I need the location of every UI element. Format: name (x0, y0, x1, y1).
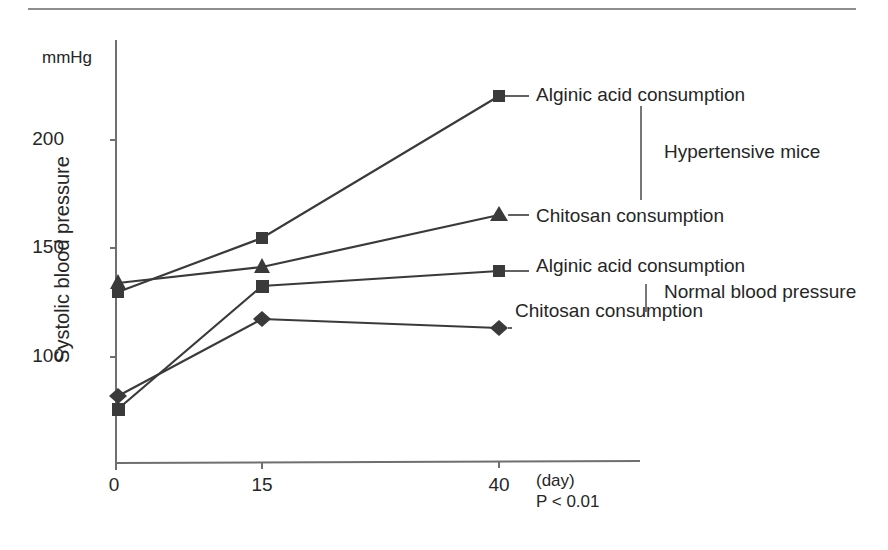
figure-page: mmHg 200 150 100 0 15 40 Systolic blood … (0, 0, 888, 550)
data-point-marker (493, 265, 505, 277)
data-point-marker (109, 388, 127, 404)
data-point-marker (490, 320, 508, 336)
data-point-marker (253, 311, 271, 327)
y-axis-unit-label: mmHg (42, 48, 92, 68)
data-point-marker (493, 90, 505, 102)
data-point-marker (256, 280, 269, 293)
group-label-hypertensive: Hypertensive mice (664, 141, 820, 163)
significance-annotation: P < 0.01 (536, 492, 600, 512)
data-point-marker (112, 403, 125, 416)
line-chart-figure: mmHg 200 150 100 0 15 40 Systolic blood … (0, 0, 888, 550)
series-label-alginic-hypertensive: Alginic acid consumption (536, 84, 745, 106)
x-axis-tick-label: 15 (242, 474, 282, 496)
group-label-normal: Normal blood pressure (664, 281, 856, 303)
series-label-chitosan-hypertensive: Chitosan consumption (536, 205, 724, 227)
chart-canvas (0, 0, 888, 550)
series-line-chitosan-hypertensive (118, 215, 499, 283)
x-axis-tick-label: 0 (94, 474, 134, 496)
series-label-chitosan-normal: Chitosan consumption (515, 300, 703, 322)
data-point-marker (490, 206, 508, 221)
series-label-alginic-normal: Alginic acid consumption (536, 255, 745, 277)
x-axis (116, 461, 640, 463)
series-line-chitosan-normal (118, 319, 499, 396)
x-axis-unit-label: (day) (536, 471, 575, 491)
y-axis-title: Systolic blood pressure (51, 110, 74, 410)
series-line-alginic-normal (118, 271, 499, 409)
series-line-alginic-hypertensive (118, 96, 499, 292)
x-axis-tick-label: 40 (479, 474, 519, 496)
data-point-marker (256, 232, 268, 244)
